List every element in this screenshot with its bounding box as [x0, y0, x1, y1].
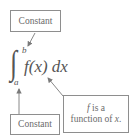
function-note-line-2: function of x.: [64, 114, 128, 125]
upper-limit-label: Constant: [19, 16, 53, 26]
period: .: [119, 114, 121, 124]
upper-limit: b: [22, 45, 27, 55]
arrow-note-to-function: [48, 78, 63, 96]
function-note-text-2: function of: [71, 114, 115, 124]
arrow-top-to-upper-limit: [28, 33, 35, 46]
integrand: f(x) dx: [24, 57, 68, 77]
function-note-text-1: is a: [90, 103, 105, 113]
function-note-box: f is a function of x.: [63, 95, 129, 133]
upper-limit-label-box: Constant: [10, 10, 61, 32]
lower-limit-label-box: Constant: [10, 114, 60, 135]
lower-limit: a: [14, 77, 19, 87]
function-note-line-1: f is a: [64, 103, 128, 114]
lower-limit-label: Constant: [18, 119, 52, 129]
